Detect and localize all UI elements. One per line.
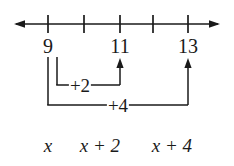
number-line-figure: 9 11 13 +2 +4 x x + 2 x + 4 [0,0,234,166]
plus-two-label: +2 [69,76,91,95]
variable-label-x: x [44,136,52,155]
variable-label-x-plus-2: x + 2 [80,136,120,155]
tick-label-13: 13 [178,36,198,56]
right-arrowhead-icon [209,20,220,28]
plus-four-label: +4 [107,96,129,115]
plus-two-arrowhead-icon [116,58,123,68]
plus-four-arrowhead-icon [184,58,191,68]
variable-label-x-plus-4: x + 4 [152,136,192,155]
left-arrowhead-icon [14,20,25,28]
tick-label-9: 9 [43,36,53,56]
tick-label-11: 11 [110,36,129,56]
